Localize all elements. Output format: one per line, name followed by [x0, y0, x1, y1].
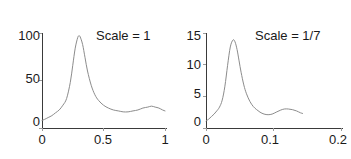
- scale-annotation: Scale = 1/7: [255, 29, 320, 42]
- data-curve: [206, 40, 303, 121]
- y-axis-tick-label: 5: [177, 87, 201, 100]
- x-axis-tick-label: 0.2: [325, 133, 351, 146]
- scale-annotation: Scale = 1: [96, 29, 151, 42]
- data-curve: [42, 36, 165, 121]
- y-axis-tick-label: 50: [8, 72, 40, 85]
- y-axis-tick-label: 0: [8, 115, 40, 128]
- chart-panel-scale-1: 100 50 0 0 0.5 1 Scale = 1: [0, 0, 175, 159]
- x-axis-tick-label: 1: [155, 133, 175, 146]
- x-axis-tick-label: 0.5: [90, 133, 116, 146]
- chart-panel-scale-one-seventh: 15 10 5 0 0 0.1 0.2 Scale = 1/7: [175, 0, 351, 159]
- figure-canvas: 100 50 0 0 0.5 1 Scale = 1 15 10 5 0 0 0…: [0, 0, 351, 159]
- x-axis-tick-label: 0: [196, 133, 216, 146]
- y-axis-tick-label: 0: [177, 115, 201, 128]
- x-axis-tick-label: 0.1: [257, 133, 283, 146]
- y-axis-tick-label: 15: [177, 29, 201, 42]
- y-axis-tick-label: 100: [8, 29, 40, 42]
- x-axis-tick-label: 0: [32, 133, 52, 146]
- y-axis-tick-label: 10: [177, 58, 201, 71]
